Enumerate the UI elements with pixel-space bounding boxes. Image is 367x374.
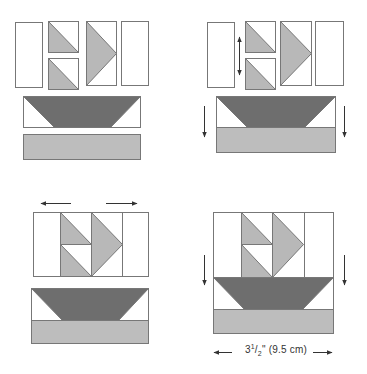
water-strip xyxy=(24,135,141,160)
half-square-triangle-top xyxy=(49,22,79,53)
left-side-strip xyxy=(208,23,235,88)
left-side-strip xyxy=(16,23,43,88)
step-2-panel xyxy=(208,22,344,153)
hull-unit xyxy=(214,278,334,310)
step-1-panel xyxy=(16,22,149,160)
step-3-panel xyxy=(32,213,149,344)
right-side-strip xyxy=(122,22,149,86)
sail-row xyxy=(214,213,334,278)
sail-row xyxy=(34,213,149,277)
dimension-text: 31/2" (9.5 cm) xyxy=(245,343,307,357)
half-square-triangle-bottom xyxy=(246,59,276,90)
water-strip xyxy=(32,321,149,344)
large-sail-unit xyxy=(87,22,117,86)
quilt-diagram xyxy=(0,0,367,374)
half-square-triangle-bottom xyxy=(49,59,79,90)
water-strip xyxy=(214,310,334,334)
hull-unit xyxy=(24,97,141,128)
finished-size-label: 31/2" (9.5 cm) xyxy=(0,343,367,361)
step-4-panel xyxy=(214,213,334,334)
large-sail-unit xyxy=(281,22,312,86)
water-strip xyxy=(217,128,336,153)
half-square-triangle-top xyxy=(246,22,276,53)
hull-unit xyxy=(32,289,149,321)
right-side-strip xyxy=(316,22,344,86)
hull-unit xyxy=(217,97,336,128)
